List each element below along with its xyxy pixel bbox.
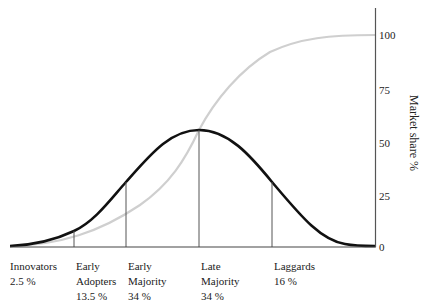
label-late-majority-name2: Majority [201, 274, 240, 289]
label-laggards-name: Laggards [274, 259, 315, 274]
y-tick-75: 75 [379, 84, 390, 96]
adoption-bell-curve [10, 130, 375, 246]
y-tick-0: 0 [379, 241, 385, 253]
label-late-majority: Late Majority 34 % [201, 259, 240, 304]
y-axis-label: Market share % [406, 95, 421, 215]
label-laggards-share: 16 % [274, 274, 315, 289]
label-early-majority-name1: Early [128, 259, 167, 274]
label-early-adopters: Early Adopters 13.5 % [76, 259, 116, 304]
label-innovators-name: Innovators [10, 259, 57, 274]
label-late-majority-name1: Late [201, 259, 240, 274]
y-tick-50: 50 [379, 137, 390, 149]
label-early-majority: Early Majority 34 % [128, 259, 167, 304]
label-early-adopters-name1: Early [76, 259, 116, 274]
label-innovators: Innovators 2.5 % [10, 259, 57, 289]
label-innovators-share: 2.5 % [10, 274, 57, 289]
label-early-majority-name2: Majority [128, 274, 167, 289]
y-tick-100: 100 [379, 29, 396, 41]
label-late-majority-share: 34 % [201, 289, 240, 304]
label-laggards: Laggards 16 % [274, 259, 315, 289]
y-tick-25: 25 [379, 190, 390, 202]
label-early-adopters-share: 13.5 % [76, 289, 116, 304]
label-early-majority-share: 34 % [128, 289, 167, 304]
market-share-curve [10, 35, 375, 246]
label-early-adopters-name2: Adopters [76, 274, 116, 289]
